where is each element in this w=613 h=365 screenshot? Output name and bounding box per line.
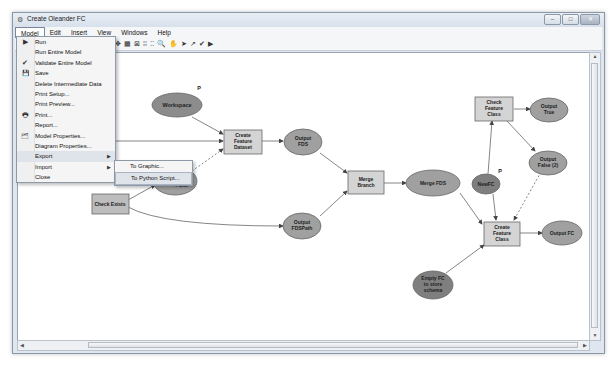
close-button[interactable]: ✕: [580, 14, 600, 25]
submenu-item-to-graphic[interactable]: To Graphic...: [115, 161, 192, 172]
menu-item-delete-intermediate-data[interactable]: Delete Intermediate Data: [17, 79, 115, 89]
svg-text:Workspace: Workspace: [162, 102, 191, 108]
svg-text:FDS: FDS: [298, 141, 309, 147]
node-output-fds[interactable]: Output FDS: [284, 129, 322, 155]
svg-text:Output FC: Output FC: [550, 230, 575, 236]
menu-item-validate-entire-model[interactable]: ✔Validate Entire Model: [17, 58, 115, 68]
menu-item-report[interactable]: Report...: [17, 120, 115, 130]
node-output-false-2[interactable]: Output False (2): [529, 151, 567, 175]
node-merge-fds[interactable]: Merge FDS: [406, 170, 460, 196]
horizontal-scrollbar[interactable]: ◀ ▶: [17, 340, 590, 351]
submenu-item-to-python-script[interactable]: To Python Script...: [115, 172, 192, 185]
checkmark-icon: ✔: [20, 58, 30, 68]
auto-layout-icon[interactable]: ⁚⁚: [150, 39, 154, 49]
vertical-scroll-thumb[interactable]: [591, 63, 598, 328]
export-submenu: To Graphic... To Python Script...: [114, 160, 193, 186]
hand-pan-icon[interactable]: ✋: [169, 39, 178, 49]
menu-item-model-properties[interactable]: 🗂Model Properties...: [17, 131, 115, 141]
menu-item-print-preview[interactable]: Print Preview...: [17, 99, 115, 109]
menu-item-run[interactable]: ▶Run: [17, 37, 115, 47]
submenu-arrow-icon: ▶: [107, 151, 111, 161]
zoom-icon[interactable]: 🔍: [157, 39, 166, 49]
validate-icon[interactable]: ✔: [199, 39, 205, 49]
menu-item-diagram-properties[interactable]: Diagram Properties...: [17, 141, 115, 151]
run-icon[interactable]: ▶: [208, 39, 213, 49]
menu-item-close[interactable]: Close: [17, 172, 115, 182]
scroll-right-icon[interactable]: ▶: [581, 341, 589, 350]
node-workspace[interactable]: Workspace P: [152, 85, 202, 117]
svg-text:Branch: Branch: [357, 182, 374, 188]
svg-text:FDSPath: FDSPath: [292, 225, 313, 231]
svg-text:schema: schema: [424, 287, 443, 293]
svg-text:Check Exists: Check Exists: [94, 201, 125, 207]
svg-text:Dataset: Dataset: [234, 144, 252, 150]
app-icon: ⚙: [17, 16, 25, 24]
fit-to-window-icon[interactable]: ⊠: [134, 39, 140, 49]
title-bar: ⚙ Create Oleander FC – □ ✕: [13, 13, 604, 27]
maximize-button[interactable]: □: [562, 14, 579, 25]
node-create-feature-class[interactable]: Create Feature Class: [484, 222, 520, 246]
grid-layout-icon[interactable]: ▦: [124, 39, 131, 49]
scroll-down-icon[interactable]: ▼: [590, 332, 600, 340]
run-icon: ▶: [20, 37, 30, 47]
node-empty-fc[interactable]: Empty FC to store schema: [413, 271, 453, 299]
scroll-left-icon[interactable]: ◀: [18, 341, 26, 350]
menu-item-save[interactable]: 💾Save: [17, 68, 115, 78]
svg-text:False (2): False (2): [538, 162, 559, 168]
node-check-feature-class[interactable]: Check Feature Class: [475, 97, 513, 121]
menu-item-import[interactable]: Import▶: [17, 162, 115, 172]
printer-icon: 🖶: [20, 110, 30, 120]
window-controls: – □ ✕: [544, 14, 600, 25]
vertical-scrollbar[interactable]: ▲ ▼: [589, 52, 601, 341]
svg-text:NewFC: NewFC: [478, 181, 495, 187]
menu-item-run-entire-model[interactable]: Run Entire Model: [17, 47, 115, 57]
model-menu-dropdown: ▶Run Run Entire Model ✔Validate Entire M…: [16, 36, 116, 183]
menu-windows[interactable]: Windows: [116, 27, 152, 38]
svg-text:P: P: [197, 85, 201, 91]
svg-text:Merge FDS: Merge FDS: [420, 180, 447, 186]
save-icon: 💾: [20, 68, 30, 78]
node-output-fdspath[interactable]: Output FDSPath: [283, 213, 321, 239]
properties-icon: 🗂: [20, 131, 30, 141]
svg-text:Class: Class: [495, 236, 509, 242]
node-output-true[interactable]: Output True: [530, 98, 568, 122]
node-output-fc[interactable]: Output FC: [542, 221, 582, 245]
full-extent-icon[interactable]: ⁞⁞: [143, 39, 147, 49]
node-newfc[interactable]: NewFC P: [472, 168, 502, 194]
select-pointer-icon[interactable]: ➤: [181, 39, 187, 49]
menu-item-print-setup[interactable]: Print Setup...: [17, 89, 115, 99]
minimize-button[interactable]: –: [544, 14, 561, 25]
svg-text:P: P: [498, 168, 502, 174]
svg-text:Class: Class: [487, 111, 501, 117]
menu-item-print[interactable]: 🖶Print...: [17, 110, 115, 120]
svg-text:True: True: [544, 109, 555, 115]
connect-icon[interactable]: ↗: [190, 39, 196, 49]
submenu-arrow-icon: ▶: [107, 162, 111, 172]
window-title: Create Oleander FC: [27, 15, 86, 22]
node-create-feature-dataset[interactable]: Create Feature Dataset: [224, 130, 262, 154]
node-merge-branch[interactable]: Merge Branch: [348, 171, 384, 194]
horizontal-scroll-thumb[interactable]: [88, 342, 578, 348]
node-check-exists[interactable]: Check Exists: [92, 194, 129, 214]
menu-help[interactable]: Help: [153, 27, 176, 38]
menu-item-export[interactable]: Export▶: [17, 151, 115, 161]
scroll-up-icon[interactable]: ▲: [590, 53, 600, 61]
